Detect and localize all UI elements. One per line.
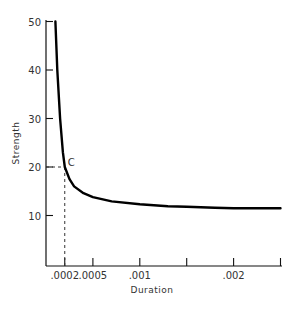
y-axis-title: Strength xyxy=(11,122,21,165)
x-axis-title: Duration xyxy=(130,285,173,295)
x-ticks: .0002.0005.001.002 xyxy=(50,258,280,281)
y-tick-label: 30 xyxy=(28,114,41,125)
strength-duration-curve xyxy=(55,22,280,209)
reference-lines-c xyxy=(46,167,65,266)
y-tick-label: 40 xyxy=(28,65,41,76)
y-tick-label: 20 xyxy=(28,162,41,173)
y-ticks: 1020304050 xyxy=(28,17,53,222)
x-tick-label: .0002 xyxy=(50,270,79,281)
annotation-c: C xyxy=(68,157,75,168)
strength-duration-chart: 1020304050 .0002.0005.001.002 C Duration… xyxy=(0,0,298,315)
x-tick-label: .0005 xyxy=(79,270,108,281)
x-tick-label: .001 xyxy=(129,270,151,281)
axes xyxy=(46,20,282,266)
y-tick-label: 10 xyxy=(28,211,41,222)
x-tick-label: .002 xyxy=(222,270,244,281)
y-tick-label: 50 xyxy=(28,17,41,28)
